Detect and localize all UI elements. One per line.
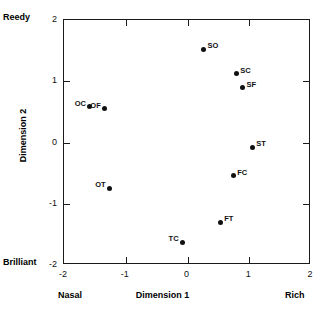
x-axis-tick-label: -2 [59,270,67,279]
data-point-label: TC [169,235,183,243]
data-point-label: FT [224,215,233,223]
y-axis-low-pole-label: Brilliant [3,258,37,267]
y-axis-tick-right [303,204,309,205]
y-axis-tick [64,143,70,144]
x-axis-tick-label: 0 [184,270,189,279]
y-axis-tick-label: 2 [37,15,57,24]
data-point-label: FC [237,169,247,177]
y-axis-tick [64,81,70,82]
data-point [201,47,206,52]
data-point-label: OF [90,102,104,110]
data-point [218,220,223,225]
x-axis-tick-label: 2 [307,270,312,279]
y-axis-tick-right [303,81,309,82]
data-point [240,85,245,90]
data-point [234,71,239,76]
x-axis-tick [126,257,127,263]
y-axis-tick-label: 0 [37,137,57,146]
y-axis-tick-label: 1 [37,76,57,85]
data-point-label: OC [75,100,90,108]
data-point-label: SF [246,81,256,89]
y-axis-title: Dimension 2 [19,91,28,181]
x-axis-tick-label: 1 [246,270,251,279]
y-axis-high-pole-label: Reedy [3,13,30,22]
x-axis-tick-top [188,20,189,26]
x-axis-tick [188,257,189,263]
x-axis-tick-label: -1 [121,270,129,279]
data-point [231,173,236,178]
plot-area: SOSCSFOCOFSTFCOTFTTC [63,19,310,264]
data-point-label: SO [208,42,219,50]
x-axis-title: Dimension 1 [0,291,325,300]
data-point-label: ST [256,140,266,148]
x-axis-tick-top [249,20,250,26]
x-axis-tick [249,257,250,263]
y-axis-tick [64,204,70,205]
data-point [250,145,255,150]
scatter-plot-figure: Reedy Brilliant Nasal Rich Dimension 1 D… [0,0,325,311]
y-axis-tick-label: -2 [37,260,57,269]
y-axis-tick-label: -1 [37,198,57,207]
data-point-label: SC [240,67,250,75]
x-axis-tick-top [126,20,127,26]
y-axis-tick-right [303,143,309,144]
data-point-label: OT [95,181,109,189]
